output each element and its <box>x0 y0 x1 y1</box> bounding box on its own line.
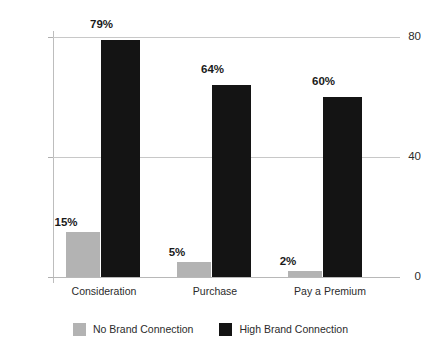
value-label-pay-a-premium-high-brand-connection: 60% <box>304 76 343 88</box>
bar-consideration-high-brand-connection <box>101 40 140 277</box>
bar-consideration-no-brand-connection <box>66 232 100 277</box>
value-label-purchase-high-brand-connection: 64% <box>193 64 232 76</box>
bar-purchase-no-brand-connection <box>177 262 211 277</box>
value-label-consideration-no-brand-connection: 15% <box>49 217 83 229</box>
bar-pay-a-premium-no-brand-connection <box>288 271 322 277</box>
gridline-0-baseline <box>53 277 400 278</box>
value-label-consideration-high-brand-connection: 79% <box>82 19 121 31</box>
x-axis-category-label-pay-a-premium: Pay a Premium <box>285 286 375 297</box>
bar-pay-a-premium-high-brand-connection <box>323 97 362 277</box>
value-label-purchase-no-brand-connection: 5% <box>160 247 194 259</box>
legend-item-high-brand-connection: High Brand Connection <box>219 323 348 336</box>
legend-swatch-icon-high-brand-connection <box>219 323 232 336</box>
bar-purchase-high-brand-connection <box>212 85 251 277</box>
chart-legend: No Brand Connection High Brand Connectio… <box>0 323 421 336</box>
legend-swatch-icon-no-brand-connection <box>73 323 86 336</box>
legend-label-no-brand-connection: No Brand Connection <box>93 324 193 335</box>
x-axis-category-label-purchase: Purchase <box>180 286 250 297</box>
x-axis-category-label-consideration: Consideration <box>64 286 144 297</box>
gridline-80 <box>53 37 400 38</box>
bar-chart: 80 40 0 15% 79% 5% 64% 2% 60% Considerat… <box>0 0 421 360</box>
legend-item-no-brand-connection: No Brand Connection <box>73 323 193 336</box>
legend-label-high-brand-connection: High Brand Connection <box>239 324 348 335</box>
value-label-pay-a-premium-no-brand-connection: 2% <box>271 256 305 268</box>
